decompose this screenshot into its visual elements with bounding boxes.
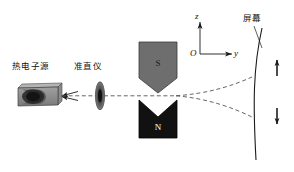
beam-path-upper: [176, 77, 252, 96]
figure-canvas: S N: [0, 0, 294, 172]
coordinate-axes: [200, 22, 232, 54]
screen-leader-line: [254, 26, 262, 48]
magnet-pole-north: N: [139, 100, 177, 138]
axis-label-z: z: [195, 12, 199, 21]
electron-source-icon: [18, 83, 62, 106]
detector-screen: [254, 28, 262, 160]
axis-label-y: y: [234, 49, 238, 58]
stern-gerlach-figure: S N 热电子源 准直仪 屏幕 z y O: [0, 0, 294, 172]
axis-label-origin: O: [190, 49, 197, 58]
electron-source-label: 热电子源: [12, 62, 50, 71]
collimator-label: 准直仪: [74, 62, 102, 71]
magnet-pole-south: S: [139, 42, 177, 93]
pole-label-s: S: [155, 58, 160, 68]
pole-label-n: N: [155, 122, 162, 132]
screen-label: 屏幕: [243, 14, 262, 23]
collimator-icon: [95, 82, 104, 110]
beam-path-lower: [176, 96, 254, 118]
